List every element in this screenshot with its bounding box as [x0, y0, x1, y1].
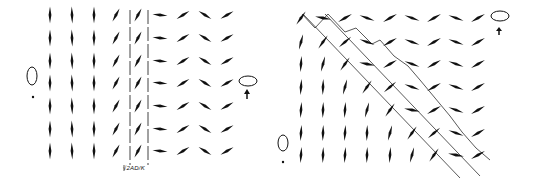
- director-spindle: [221, 125, 234, 133]
- wall-zigzag: [302, 14, 490, 160]
- boundary-width-label: √2AD/K: [123, 165, 145, 171]
- director-spindle: [427, 38, 441, 46]
- director-spindle: [383, 14, 397, 22]
- director-spindle: [177, 102, 190, 110]
- director-spindle: [471, 38, 485, 46]
- director-spindle: [134, 144, 141, 157]
- director-spindle: [221, 147, 234, 155]
- director-spindle: [177, 11, 190, 19]
- director-spindle: [199, 57, 212, 65]
- director-spindle: [93, 30, 96, 47]
- up-arrow-head-icon: [496, 27, 502, 31]
- director-spindle: [93, 98, 96, 115]
- director-spindle: [199, 11, 212, 19]
- director-spindle: [177, 57, 190, 65]
- director-spindle: [177, 147, 190, 155]
- director-spindle: [300, 147, 303, 163]
- director-spindle: [221, 79, 234, 87]
- director-spindle: [471, 106, 485, 114]
- director-spindle: [340, 57, 349, 70]
- director-spindle: [71, 75, 74, 92]
- director-spindle: [389, 147, 392, 163]
- director-spindle: [112, 122, 119, 135]
- director-spindle: [322, 102, 325, 118]
- director-spindle: [199, 34, 212, 42]
- director-spindle: [322, 147, 325, 163]
- dot-icon: [282, 161, 284, 163]
- director-spindle: [71, 98, 74, 115]
- director-spindle: [384, 82, 396, 92]
- wall-line: [325, 14, 480, 176]
- director-spindle: [427, 106, 441, 114]
- boundary-label-text: √2AD/K: [123, 165, 145, 171]
- director-spindle: [71, 143, 74, 160]
- director-spindle: [221, 57, 234, 65]
- director-spindle: [112, 8, 119, 21]
- director-spindle: [221, 11, 234, 19]
- director-spindle: [322, 79, 325, 95]
- director-spindle: [112, 54, 119, 67]
- director-spindle: [383, 38, 397, 46]
- director-spindle: [471, 14, 485, 22]
- director-spindle: [199, 147, 212, 155]
- director-spindle: [471, 129, 485, 137]
- director-spindle: [71, 53, 74, 70]
- director-spindle: [471, 60, 485, 68]
- director-spindle: [49, 7, 52, 24]
- director-spindle: [134, 8, 141, 21]
- director-spindle: [134, 99, 141, 112]
- director-spindle: [321, 56, 325, 71]
- director-spindle: [448, 39, 463, 44]
- director-spindle: [134, 54, 141, 67]
- director-spindle: [199, 102, 212, 110]
- director-spindle: [134, 31, 141, 44]
- director-spindle: [385, 103, 394, 116]
- director-spindle: [448, 15, 463, 20]
- director-spindle: [448, 84, 463, 89]
- director-spindle: [49, 75, 52, 92]
- director-spindle: [318, 35, 327, 48]
- director-spindle: [199, 125, 212, 133]
- director-spindle: [448, 61, 463, 66]
- director-spindle: [362, 80, 371, 93]
- ellipse-vertical-icon: [27, 67, 37, 85]
- director-spindle: [153, 60, 168, 63]
- director-spindle: [112, 99, 119, 112]
- director-spindle: [177, 79, 190, 87]
- director-spindle: [71, 121, 74, 138]
- director-spindle: [404, 61, 419, 66]
- director-spindle: [112, 31, 119, 44]
- director-spindle: [300, 56, 303, 72]
- director-spindle: [383, 60, 397, 68]
- director-spindle: [177, 125, 190, 133]
- director-spindle: [93, 143, 96, 160]
- director-spindle: [471, 83, 485, 91]
- director-spindle: [49, 143, 52, 160]
- director-spindle: [365, 102, 369, 117]
- director-spindle: [407, 126, 416, 139]
- director-spindle: [93, 7, 96, 24]
- director-spindle: [388, 125, 392, 140]
- director-spindle: [93, 53, 96, 70]
- director-spindle: [300, 102, 303, 118]
- director-spindle: [153, 150, 168, 153]
- director-spindle: [300, 79, 303, 95]
- director-spindle: [359, 15, 374, 20]
- ellipse-vertical-icon: [278, 135, 288, 151]
- director-spindle: [300, 125, 303, 141]
- director-spindle: [153, 128, 168, 131]
- director-spindle: [49, 30, 52, 47]
- director-spindle: [93, 121, 96, 138]
- dot-icon: [32, 96, 34, 98]
- director-spindle: [93, 75, 96, 92]
- director-spindle: [177, 34, 190, 42]
- director-spindle: [49, 98, 52, 115]
- director-spindle: [71, 30, 74, 47]
- director-spindle: [134, 122, 141, 135]
- director-spindle: [404, 39, 419, 44]
- director-spindle: [134, 76, 141, 89]
- director-spindle: [299, 34, 303, 49]
- director-spindle: [404, 15, 419, 20]
- up-arrow-head-icon: [244, 89, 250, 94]
- director-spindle: [427, 14, 441, 22]
